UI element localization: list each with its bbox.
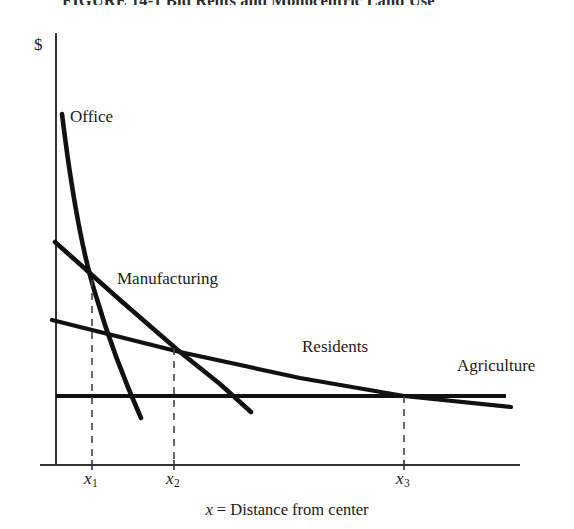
bid-rent-chart <box>0 0 574 529</box>
curve-label-office: Office <box>70 108 113 125</box>
x-axis-caption-text: = Distance from center <box>217 500 369 519</box>
tick-label-x1-var: x <box>84 469 92 488</box>
tick-label-x2-sub: 2 <box>174 477 180 489</box>
y-axis-label: $ <box>34 36 43 53</box>
figure-container: FIGURE 14-1 Bid Rents and Monocentric La… <box>0 0 574 529</box>
tick-label-x3-var: x <box>396 469 404 488</box>
tick-label-x3-sub: 3 <box>404 477 410 489</box>
tick-label-x2-var: x <box>166 469 174 488</box>
curve-label-manufacturing: Manufacturing <box>117 270 218 287</box>
tick-label-x2: x2 <box>166 470 179 487</box>
curve-label-residents: Residents <box>302 338 368 355</box>
tick-label-x1: x1 <box>84 470 97 487</box>
tick-label-x3: x3 <box>396 470 409 487</box>
tick-label-x1-sub: 1 <box>92 477 98 489</box>
x-axis-caption-variable: x <box>205 500 212 519</box>
x-axis-caption: x = Distance from center <box>0 500 574 520</box>
curve-office <box>62 114 141 418</box>
curve-label-agriculture: Agriculture <box>457 357 535 374</box>
